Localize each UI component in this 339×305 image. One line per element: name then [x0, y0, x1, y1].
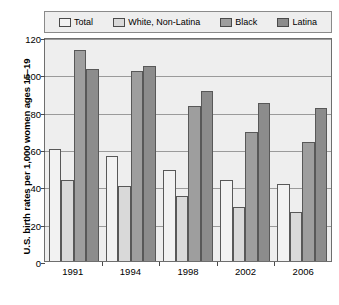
bar[interactable]	[220, 180, 233, 261]
bar[interactable]	[131, 71, 144, 261]
x-tick-mark	[274, 262, 275, 266]
bar[interactable]	[188, 106, 201, 261]
x-tick-mark	[159, 262, 160, 266]
x-tick-label: 2002	[217, 266, 275, 277]
bar-group	[274, 39, 331, 261]
bar[interactable]	[176, 196, 189, 261]
bar-group	[102, 39, 159, 261]
legend-label: Latina	[292, 18, 317, 27]
legend-entry-2[interactable]: Black	[220, 18, 257, 27]
legend-swatch-icon	[277, 18, 289, 27]
bar[interactable]	[86, 69, 99, 261]
bar-groups	[45, 39, 331, 261]
bar[interactable]	[258, 103, 271, 261]
bar[interactable]	[74, 50, 87, 261]
y-tick-label: 0	[36, 258, 41, 269]
legend-entry-0[interactable]: Total	[59, 18, 93, 27]
bar[interactable]	[201, 91, 214, 261]
x-tick-mark	[217, 262, 218, 266]
legend-swatch-icon	[113, 18, 125, 27]
chart-figure: U.S. birth rates per 1,000 women ages 15…	[0, 0, 339, 305]
bar[interactable]	[143, 66, 156, 261]
bar[interactable]	[315, 108, 328, 261]
legend-entry-1[interactable]: White, Non-Latina	[113, 18, 200, 27]
legend-label: Black	[235, 18, 257, 27]
legend-entry-3[interactable]: Latina	[277, 18, 317, 27]
bar-group	[45, 39, 102, 261]
legend-swatch-icon	[220, 18, 232, 27]
bar[interactable]	[233, 207, 246, 261]
bar[interactable]	[277, 184, 290, 261]
x-tick-label: 1994	[102, 266, 160, 277]
bar[interactable]	[245, 132, 258, 261]
bar-group	[159, 39, 216, 261]
legend-label: Total	[74, 18, 93, 27]
y-tick-label: 120	[25, 34, 41, 45]
y-tick-label: 80	[30, 108, 41, 119]
legend-label: White, Non-Latina	[128, 18, 200, 27]
y-tick-mark	[41, 263, 45, 264]
bar[interactable]	[302, 142, 315, 261]
x-tick-label: 2006	[274, 266, 332, 277]
y-tick-label: 100	[25, 71, 41, 82]
chart-legend: TotalWhite, Non-LatinaBlackLatina	[44, 11, 332, 33]
x-tick-label: 1998	[159, 266, 217, 277]
bar[interactable]	[290, 212, 303, 261]
legend-swatch-icon	[59, 18, 71, 27]
bar[interactable]	[61, 180, 74, 261]
bar[interactable]	[49, 149, 62, 261]
x-axis-labels: 19911994199820022006	[44, 266, 332, 277]
y-tick-label: 40	[30, 183, 41, 194]
x-tick-mark	[102, 262, 103, 266]
bar[interactable]	[118, 186, 131, 261]
bar-group	[217, 39, 274, 261]
x-tick-label: 1991	[44, 266, 102, 277]
bar[interactable]	[106, 156, 119, 261]
y-tick-label: 20	[30, 220, 41, 231]
bar[interactable]	[163, 170, 176, 261]
plot-area: 020406080100120	[44, 38, 332, 262]
y-tick-label: 60	[30, 146, 41, 157]
